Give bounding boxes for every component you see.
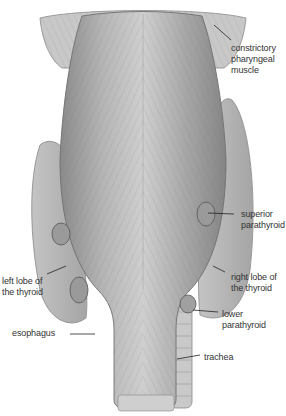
label-esophagus: esophagus: [12, 328, 55, 339]
superior-parathyroid-left: [52, 223, 70, 245]
label-trachea: trachea: [204, 352, 233, 363]
lower-parathyroid-left: [70, 277, 88, 303]
anatomy-figure: constrictory pharyngeal muscle superior …: [0, 0, 286, 416]
label-lower-parathyroid: lower parathyroid: [222, 309, 266, 331]
label-constrictory-pharyngeal-muscle: constrictory pharyngeal muscle: [231, 43, 276, 76]
superior-parathyroid-right: [197, 202, 215, 226]
label-right-lobe-thyroid: right lobe of the thyroid: [231, 272, 277, 294]
label-superior-parathyroid: superior parathyroid: [241, 209, 285, 231]
label-left-lobe-thyroid: left lobe of the thyroid: [2, 276, 43, 298]
